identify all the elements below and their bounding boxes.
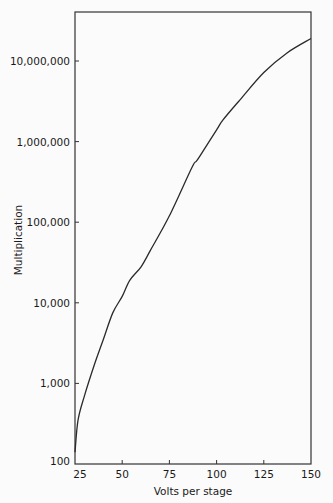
y-tick-label: 100,000 (27, 216, 70, 228)
plot-frame (75, 12, 311, 464)
x-tick-label: 125 (254, 468, 274, 480)
y-tick-label: 100 (50, 455, 70, 467)
y-tick-label: 1,000,000 (17, 136, 70, 148)
y-tick-label: 10,000,000 (10, 55, 70, 67)
x-axis-label: Volts per stage (154, 485, 233, 497)
multiplication-curve (75, 39, 311, 453)
x-tick-label: 100 (207, 468, 227, 480)
multiplication-vs-volts-chart: 1001,00010,000100,0001,000,00010,000,000… (0, 0, 333, 503)
x-tick-label: 75 (163, 468, 176, 480)
y-axis-label: Multiplication (12, 205, 24, 276)
y-tick-label: 10,000 (33, 297, 70, 309)
x-tick-label: 50 (116, 468, 129, 480)
y-tick-label: 1,000 (40, 377, 70, 389)
x-axis: 255075100125150 (73, 460, 321, 480)
x-tick-label: 150 (301, 468, 321, 480)
x-tick-label: 25 (73, 468, 86, 480)
